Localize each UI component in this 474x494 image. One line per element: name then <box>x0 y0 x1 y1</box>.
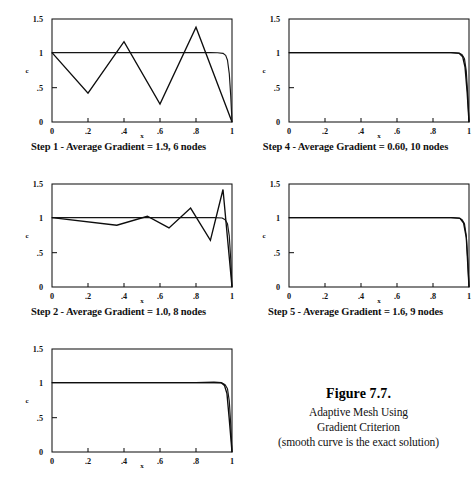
figure-caption-block: Figure 7.7. Adaptive Mesh Using Gradient… <box>243 386 474 451</box>
y-tick-label: 1.5 <box>33 180 43 189</box>
plot-frame-step-4 <box>289 19 469 122</box>
x-tick-label: .8 <box>193 292 199 301</box>
x-tick-label: 0 <box>50 292 54 301</box>
panel-caption-step-2: Step 2 - Average Gradient = 1.0, 8 nodes <box>0 306 237 317</box>
plot-area-step-2: 0.2.4.6.81 1.51.50 x c <box>0 167 237 307</box>
y-axis-tick-labels-step-5: 1.51.50 <box>270 180 280 292</box>
x-tick-label: 1 <box>230 292 234 301</box>
figure-plot-grid: 0.2.4.6.81 1.51.50 x c Step 1 - Average … <box>0 0 474 494</box>
x-tick-label: .6 <box>157 457 163 466</box>
plot-area-step-4: 0.2.4.6.81 1.51.50 x c <box>237 2 474 142</box>
figure-caption-line-2: Gradient Criterion <box>243 420 474 435</box>
plot-svg-step-2: 0.2.4.6.81 1.51.50 x c <box>0 167 237 307</box>
x-tick-label: 0 <box>50 127 54 136</box>
plot-frame-step-5 <box>289 184 469 287</box>
x-tick-label: .2 <box>85 127 91 136</box>
y-tick-label: 0 <box>276 283 280 292</box>
x-tick-label: 0 <box>50 457 54 466</box>
x-tick-label: .6 <box>394 292 400 301</box>
y-tick-label: .5 <box>37 414 43 423</box>
y-axis-label-step-4: c <box>262 67 265 75</box>
x-tick-label: .4 <box>358 292 364 301</box>
plot-panel-step-2: 0.2.4.6.81 1.51.50 x c Step 2 - Average … <box>0 167 237 332</box>
x-axis-label-step-4: x <box>377 132 381 140</box>
x-axis-label-step-1: x <box>140 132 144 140</box>
x-tick-label: .6 <box>157 292 163 301</box>
y-axis-tick-labels-step-3: 1.51.50 <box>33 345 43 457</box>
y-axis-tick-labels-step-2: 1.51.50 <box>33 180 43 292</box>
x-tick-label: 1 <box>467 127 471 136</box>
plot-svg-step-4: 0.2.4.6.81 1.51.50 x c <box>237 2 474 142</box>
y-axis-tick-labels-step-4: 1.51.50 <box>270 15 280 127</box>
x-axis-label-step-2: x <box>140 297 144 305</box>
y-tick-label: 1 <box>276 49 280 58</box>
plot-panel-step-1: 0.2.4.6.81 1.51.50 x c Step 1 - Average … <box>0 2 237 167</box>
x-tick-label: 0 <box>287 127 291 136</box>
x-tick-label: .2 <box>322 292 328 301</box>
y-tick-label: 0 <box>276 118 280 127</box>
numerical-solution-curve-step-2 <box>52 189 232 287</box>
panel-caption-step-4: Step 4 - Average Gradient = 0.60, 10 nod… <box>237 141 474 152</box>
y-tick-label: 0 <box>39 448 43 457</box>
y-axis-label-step-1: c <box>25 67 28 75</box>
y-tick-label: .5 <box>274 84 280 93</box>
exact-solution-curve-step-4 <box>289 53 469 122</box>
x-axis-ticks-step-2 <box>88 283 196 287</box>
figure-caption-line-1: Adaptive Mesh Using <box>243 405 474 420</box>
y-axis-label-step-3: c <box>25 397 28 405</box>
exact-solution-curve-step-1 <box>52 53 232 122</box>
y-tick-label: .5 <box>274 249 280 258</box>
x-axis-ticks-step-1 <box>88 118 196 122</box>
y-tick-label: 1.5 <box>270 180 280 189</box>
x-tick-label: .2 <box>85 292 91 301</box>
plot-panel-step-5: 0.2.4.6.81 1.51.50 x c Step 5 - Average … <box>237 167 474 332</box>
x-tick-label: .6 <box>157 127 163 136</box>
exact-solution-curve-step-2 <box>52 218 232 287</box>
y-tick-label: 1.5 <box>33 15 43 24</box>
x-tick-label: .8 <box>430 292 436 301</box>
x-tick-label: .2 <box>322 127 328 136</box>
numerical-solution-curve-step-1 <box>52 27 232 122</box>
x-axis-ticks-step-4 <box>325 118 433 122</box>
plot-frame-step-2 <box>52 184 232 287</box>
y-tick-label: 1 <box>39 49 43 58</box>
x-tick-label: .8 <box>430 127 436 136</box>
exact-solution-curve-step-3 <box>52 383 232 452</box>
x-axis-label-step-5: x <box>377 297 381 305</box>
plot-panel-step-3: 0.2.4.6.81 1.51.50 x c <box>0 332 237 494</box>
numerical-solution-curve-step-5 <box>289 218 469 287</box>
x-tick-label: .6 <box>394 127 400 136</box>
x-axis-ticks-step-5 <box>325 283 433 287</box>
plot-frame-step-1 <box>52 19 232 122</box>
numerical-solution-curve-step-4 <box>289 53 469 122</box>
x-tick-label: .4 <box>358 127 364 136</box>
plot-frame-step-3 <box>52 349 232 452</box>
x-tick-label: .4 <box>121 457 127 466</box>
x-tick-label: 1 <box>230 127 234 136</box>
y-axis-label-step-2: c <box>25 232 28 240</box>
panel-caption-step-1: Step 1 - Average Gradient = 1.9, 6 nodes <box>0 141 237 152</box>
y-tick-label: 1.5 <box>33 345 43 354</box>
plot-svg-step-3: 0.2.4.6.81 1.51.50 x c <box>0 332 237 472</box>
y-axis-label-step-5: c <box>262 232 265 240</box>
plot-panel-step-4: 0.2.4.6.81 1.51.50 x c Step 4 - Average … <box>237 2 474 167</box>
x-axis-label-step-3: x <box>140 462 144 470</box>
y-tick-label: .5 <box>37 249 43 258</box>
x-tick-label: 1 <box>230 457 234 466</box>
plot-svg-step-1: 0.2.4.6.81 1.51.50 x c <box>0 2 237 142</box>
x-tick-label: .4 <box>121 127 127 136</box>
y-tick-label: 1.5 <box>270 15 280 24</box>
exact-solution-curve-step-5 <box>289 218 469 287</box>
y-tick-label: .5 <box>37 84 43 93</box>
x-tick-label: .4 <box>121 292 127 301</box>
x-tick-label: .8 <box>193 127 199 136</box>
plot-area-step-3: 0.2.4.6.81 1.51.50 x c <box>0 332 237 472</box>
panel-caption-step-5: Step 5 - Average Gradient = 1.6, 9 nodes <box>237 306 474 317</box>
figure-caption-line-3: (smooth curve is the exact solution) <box>243 435 474 450</box>
y-tick-label: 0 <box>39 118 43 127</box>
plot-area-step-1: 0.2.4.6.81 1.51.50 x c <box>0 2 237 142</box>
figure-number-title: Figure 7.7. <box>243 386 474 402</box>
x-tick-label: .2 <box>85 457 91 466</box>
plot-svg-step-5: 0.2.4.6.81 1.51.50 x c <box>237 167 474 307</box>
y-axis-tick-labels-step-1: 1.51.50 <box>33 15 43 127</box>
